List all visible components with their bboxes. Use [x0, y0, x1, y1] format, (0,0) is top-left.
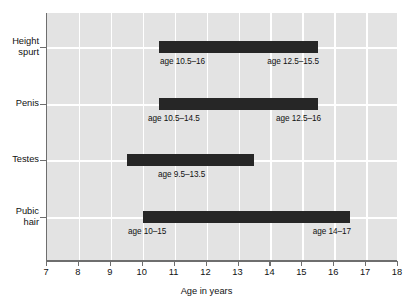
x-tick-label-15: 15 [288, 267, 314, 277]
x-tick-8 [78, 261, 79, 266]
bar-penis [159, 98, 319, 110]
y-tick-testes [40, 160, 47, 161]
x-tick-label-17: 17 [352, 267, 378, 277]
x-tick-label-12: 12 [193, 267, 219, 277]
y-tick-pubic-hair [40, 217, 47, 218]
x-tick-12 [206, 261, 207, 266]
bar-pubic-hair [143, 211, 350, 223]
x-tick-label-14: 14 [256, 267, 282, 277]
bar-height-spurt [159, 41, 319, 53]
puberty-timeline-chart: age 10.5–16 age 12.5–15.5 age 10.5–14.5 … [0, 0, 413, 305]
bar-label-pubic-hair-right: age 14–17 [285, 227, 351, 236]
bar-testes [127, 154, 255, 166]
gridline-vertical-9 [111, 13, 113, 260]
bar-label-pubic-hair-left: age 10–15 [128, 227, 166, 236]
x-axis-title: Age in years [0, 286, 413, 296]
y-axis-label-height-spurt: Height spurt [0, 36, 39, 58]
bar-label-height-spurt-right: age 12.5–15.5 [242, 57, 319, 66]
x-axis-line [46, 260, 397, 262]
gridline-vertical-17 [366, 13, 368, 260]
x-tick-11 [174, 261, 175, 266]
bar-label-testes-center: age 9.5–13.5 [158, 170, 205, 179]
bar-label-penis-right: age 12.5–16 [247, 114, 321, 123]
y-axis-label-penis: Penis [0, 98, 39, 109]
x-tick-7 [46, 261, 47, 266]
x-tick-label-10: 10 [129, 267, 155, 277]
plot-area: age 10.5–16 age 12.5–15.5 age 10.5–14.5 … [46, 13, 397, 260]
x-tick-9 [110, 261, 111, 266]
x-tick-13 [238, 261, 239, 266]
bar-label-height-spurt-left: age 10.5–16 [160, 57, 205, 66]
x-tick-label-11: 11 [161, 267, 187, 277]
x-tick-17 [365, 261, 366, 266]
x-tick-18 [397, 261, 398, 266]
x-tick-16 [333, 261, 334, 266]
x-tick-14 [269, 261, 270, 266]
bar-label-penis-left: age 10.5–14.5 [148, 114, 200, 123]
y-tick-penis [40, 104, 47, 105]
x-tick-10 [142, 261, 143, 266]
x-tick-label-7: 7 [33, 267, 59, 277]
y-axis-label-pubic-hair: Pubic hair [0, 206, 39, 228]
x-tick-label-13: 13 [225, 267, 251, 277]
y-tick-height-spurt [40, 47, 47, 48]
x-tick-label-9: 9 [97, 267, 123, 277]
y-axis-label-testes: Testes [0, 154, 39, 165]
x-tick-15 [301, 261, 302, 266]
x-tick-label-18: 18 [384, 267, 410, 277]
x-tick-label-16: 16 [320, 267, 346, 277]
gridline-vertical-8 [79, 13, 81, 260]
x-tick-label-8: 8 [65, 267, 91, 277]
